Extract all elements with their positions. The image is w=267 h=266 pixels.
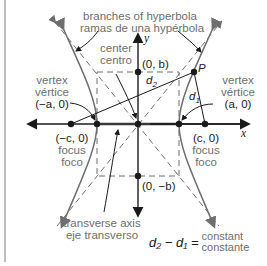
- point-p: [191, 69, 197, 75]
- center-label: center centro: [94, 42, 138, 66]
- pointer-branch-right: [178, 31, 201, 52]
- center-label-en: center: [94, 42, 138, 54]
- transverse-axis-es: eje transverso: [60, 229, 144, 241]
- point-0-b: [135, 69, 141, 75]
- y-axis-label: y: [144, 32, 149, 44]
- transverse-axis-en: transverse axis: [60, 217, 144, 229]
- point-0-neg-b-label: (0, −b): [142, 180, 176, 192]
- pointer-transverse-axis: [104, 130, 118, 212]
- vertex-left-point: [94, 121, 100, 127]
- focus-right-coord: (c, 0): [184, 132, 228, 144]
- focus-left-label: (−c, 0) focus foco: [50, 132, 94, 168]
- vertex-right-es: vértice: [213, 86, 263, 98]
- hyperbola-left-branch: [62, 28, 97, 226]
- d1-label: d1: [189, 90, 200, 105]
- point-0-neg-b: [135, 173, 141, 179]
- focus-left-en: focus: [50, 144, 94, 156]
- focus-right-point: [202, 121, 208, 127]
- pointer-vertex-right: [182, 104, 213, 120]
- hyperbola-diagram: branches of hyperbola ramas de una hypér…: [0, 0, 267, 266]
- point-0-b-label: (0, b): [142, 58, 169, 70]
- x-axis-label: x: [241, 127, 246, 139]
- focus-left-point: [68, 121, 74, 127]
- equation-lhs: d₂ − d₁ =: [149, 235, 199, 250]
- focus-left-coord: (−c, 0): [50, 132, 94, 144]
- vertex-right-point: [176, 121, 182, 127]
- difference-equation: d₂ − d₁ = constant constante: [149, 231, 249, 253]
- focus-right-en: focus: [184, 144, 228, 156]
- transverse-axis-label: transverse axis eje transverso: [60, 217, 144, 241]
- hyperbola-right-branch: [179, 28, 214, 226]
- vertex-left-label: vertex vértice (−a, 0): [30, 74, 74, 110]
- d2-label: d2: [146, 74, 157, 89]
- equation-rhs: constant constante: [202, 231, 250, 253]
- vertex-right-coord: (a, 0): [213, 98, 263, 110]
- distance-d2-line: [71, 72, 194, 124]
- center-point: [135, 121, 141, 127]
- vertex-right-label: vertex vértice (a, 0): [213, 74, 263, 110]
- vertex-left-en: vertex: [30, 74, 74, 86]
- pointer-center: [116, 74, 136, 118]
- focus-right-es: foco: [184, 156, 228, 168]
- vertex-left-es: vértice: [30, 86, 74, 98]
- focus-right-label: (c, 0) focus foco: [184, 132, 228, 168]
- vertex-right-en: vertex: [213, 74, 263, 86]
- point-p-label: P: [198, 62, 206, 74]
- vertex-left-coord: (−a, 0): [30, 98, 74, 110]
- focus-left-es: foco: [50, 156, 94, 168]
- branches-label-en: branches of hyperbola: [80, 10, 200, 22]
- center-label-es: centro: [94, 54, 138, 66]
- branches-label-es: ramas de una hypérbola: [80, 22, 200, 34]
- equation-rhs-es: constante: [202, 242, 250, 253]
- branches-label: branches of hyperbola ramas de una hypér…: [80, 10, 200, 34]
